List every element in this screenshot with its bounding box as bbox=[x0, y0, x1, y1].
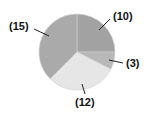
label-12: (12) bbox=[75, 96, 95, 108]
label-15: (15) bbox=[9, 20, 29, 32]
label-10: (10) bbox=[113, 10, 133, 22]
label-3: (3) bbox=[126, 57, 140, 69]
pie-chart: (10) (3) (12) (15) bbox=[0, 0, 151, 117]
